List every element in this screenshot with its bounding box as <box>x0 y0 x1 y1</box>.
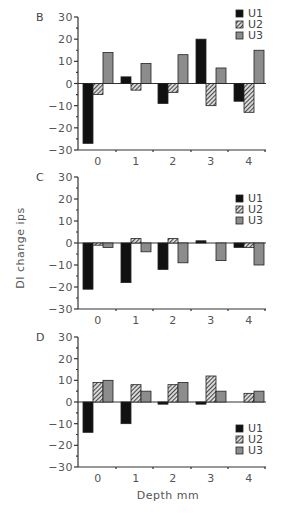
bar-u3 <box>178 243 188 263</box>
bar-u2 <box>168 84 178 93</box>
bar-u2 <box>244 84 254 113</box>
legend-swatch-u2 <box>236 436 243 443</box>
legend-swatch-u1 <box>236 425 243 432</box>
y-tick-label: 10 <box>58 374 73 387</box>
legend-swatch-u2 <box>236 206 243 213</box>
legend-swatch-u2 <box>236 21 243 28</box>
y-tick-label: −10 <box>48 418 73 431</box>
bar-u3 <box>254 391 264 402</box>
panel-d: D3020100−10−20−3001234U1U2U3 <box>36 331 266 485</box>
x-tick-label: 0 <box>94 472 102 485</box>
bar-u1 <box>158 84 168 104</box>
bar-u1 <box>234 243 244 247</box>
x-tick-label: 2 <box>169 314 177 327</box>
x-tick-label: 3 <box>207 314 215 327</box>
x-tick-label: 2 <box>169 155 177 168</box>
bar-u2 <box>168 239 178 243</box>
bar-u3 <box>103 380 113 402</box>
panel-b: B3020100−10−20−3001234U1U2U3 <box>36 7 266 168</box>
legend-label: U3 <box>248 29 263 42</box>
bar-u2 <box>244 393 254 402</box>
y-tick-label: 30 <box>58 171 73 184</box>
y-tick-label: −10 <box>48 100 73 113</box>
y-tick-label: 0 <box>66 237 74 250</box>
bar-u3 <box>178 383 188 403</box>
x-tick-label: 2 <box>169 472 177 485</box>
y-tick-label: 20 <box>58 353 73 366</box>
bar-u3 <box>178 55 188 84</box>
y-tick-label: 0 <box>66 78 74 91</box>
y-tick-label: −30 <box>48 144 73 157</box>
bar-u3 <box>103 243 113 247</box>
y-axis-title: DI change ips <box>14 207 27 288</box>
bar-u1 <box>121 243 131 283</box>
x-tick-label: 3 <box>207 472 215 485</box>
bar-u2 <box>168 385 178 402</box>
bar-u3 <box>254 50 264 83</box>
bar-u2 <box>93 243 103 245</box>
figure: B3020100−10−20−3001234U1U2U3C3020100−10−… <box>0 0 292 520</box>
y-tick-label: −30 <box>48 461 73 474</box>
bar-u3 <box>141 243 151 252</box>
y-tick-label: 0 <box>66 396 74 409</box>
y-tick-label: 20 <box>58 33 73 46</box>
y-tick-label: 10 <box>58 215 73 228</box>
x-tick-label: 4 <box>245 155 253 168</box>
bar-u2 <box>244 243 254 247</box>
x-tick-label: 3 <box>207 155 215 168</box>
x-axis-title: Depth mm <box>137 489 199 502</box>
bar-u1 <box>83 402 93 432</box>
bar-u2 <box>206 376 216 402</box>
legend-swatch-u1 <box>236 10 243 17</box>
bar-u3 <box>141 391 151 402</box>
y-tick-label: 10 <box>58 55 73 68</box>
bar-u1 <box>234 84 244 102</box>
bar-u3 <box>216 243 226 261</box>
y-tick-label: −30 <box>48 303 73 316</box>
bar-u3 <box>254 243 264 265</box>
panel-letter: B <box>36 11 44 24</box>
bar-u1 <box>196 39 206 83</box>
y-tick-label: −20 <box>48 439 73 452</box>
bar-u3 <box>216 68 226 84</box>
bar-u2 <box>131 84 141 91</box>
bar-u2 <box>93 84 103 95</box>
bar-u1 <box>121 77 131 84</box>
bar-u1 <box>83 84 93 144</box>
y-tick-label: 20 <box>58 193 73 206</box>
legend-swatch-u1 <box>236 195 243 202</box>
x-tick-label: 1 <box>132 472 140 485</box>
bar-u2 <box>93 383 103 403</box>
panel-letter: C <box>36 171 44 184</box>
legend-swatch-u3 <box>236 217 243 224</box>
bar-u1 <box>196 241 206 243</box>
legend-label: U3 <box>248 214 263 227</box>
bar-u1 <box>158 402 168 404</box>
y-tick-label: 30 <box>58 11 73 24</box>
panel-c: C3020100−10−20−3001234U1U2U3 <box>36 171 266 327</box>
x-tick-label: 4 <box>245 314 253 327</box>
y-tick-label: −20 <box>48 281 73 294</box>
y-tick-label: −10 <box>48 259 73 272</box>
bar-u3 <box>216 391 226 402</box>
bar-u1 <box>121 402 131 424</box>
bar-u3 <box>141 64 151 84</box>
legend-swatch-u3 <box>236 447 243 454</box>
x-tick-label: 0 <box>94 155 102 168</box>
x-tick-label: 0 <box>94 314 102 327</box>
bar-u2 <box>131 385 141 402</box>
legend-swatch-u3 <box>236 32 243 39</box>
x-tick-label: 4 <box>245 472 253 485</box>
y-tick-label: 30 <box>58 331 73 344</box>
legend-label: U3 <box>248 444 263 457</box>
bar-u1 <box>158 243 168 269</box>
bar-u1 <box>196 402 206 404</box>
x-tick-label: 1 <box>132 155 140 168</box>
bar-u1 <box>83 243 93 289</box>
bar-u2 <box>131 239 141 243</box>
y-tick-label: −20 <box>48 122 73 135</box>
bar-u2 <box>206 84 216 106</box>
panel-letter: D <box>36 331 44 344</box>
bar-u3 <box>103 52 113 83</box>
x-tick-label: 1 <box>132 314 140 327</box>
